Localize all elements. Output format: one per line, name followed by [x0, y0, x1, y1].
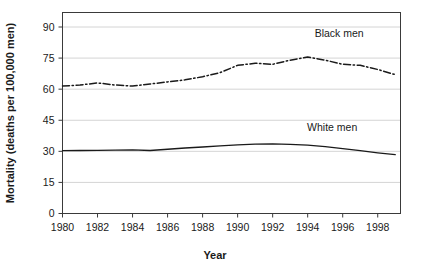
- x-tick-label: 1994: [296, 221, 320, 233]
- y-tick-label: 0: [49, 207, 55, 219]
- y-axis-title: Mortality (deaths per 100,000 men): [4, 22, 16, 203]
- x-tick-label: 1986: [156, 221, 180, 233]
- x-tick-label: 1984: [121, 221, 145, 233]
- y-tick-label: 45: [43, 114, 55, 126]
- x-tick-label: 1996: [331, 221, 355, 233]
- series-annotation-white-men: White men: [307, 121, 357, 133]
- y-tick-label: 75: [43, 52, 55, 64]
- x-tick-label: 1982: [86, 221, 110, 233]
- y-tick-label: 90: [43, 21, 55, 33]
- x-tick-label: 1988: [191, 221, 215, 233]
- mortality-line-chart: 0153045607590 19801982198419861988199019…: [0, 0, 430, 270]
- x-axis-title: Year: [203, 249, 227, 261]
- y-tick-label: 30: [43, 145, 55, 157]
- x-tick-label: 1992: [261, 221, 285, 233]
- series-annotation-black-men: Black men: [315, 27, 364, 39]
- y-tick-label: 15: [43, 176, 55, 188]
- chart-figure: 0153045607590 19801982198419861988199019…: [0, 0, 430, 270]
- x-tick-label: 1998: [366, 221, 390, 233]
- x-tick-label: 1990: [226, 221, 250, 233]
- y-tick-label: 60: [43, 83, 55, 95]
- x-tick-label: 1980: [51, 221, 75, 233]
